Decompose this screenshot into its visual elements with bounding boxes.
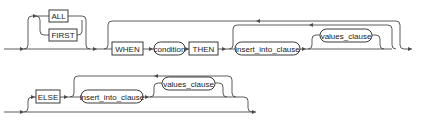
condition-label: condition <box>153 45 185 54</box>
row2-values-branch-return <box>215 83 227 97</box>
else-branch <box>24 97 36 112</box>
values-clause-label: values_clause <box>321 32 372 41</box>
insert-into-clause-label: insert_into_clause <box>235 45 300 54</box>
end-arrow-icon <box>252 110 256 114</box>
else-branch-return <box>236 97 252 112</box>
row2-values-clause-label: values_clause <box>163 80 214 89</box>
row2-insert-into-clause-label: insert_into_clause <box>80 93 145 102</box>
syntax-diagram: ALL FIRST WHEN condition THEN insert_int… <box>0 0 422 124</box>
branch-first-return <box>77 20 82 35</box>
arrow-icon <box>145 95 149 99</box>
arrow-icon <box>149 47 153 51</box>
keyword-else: ELSE <box>38 93 58 102</box>
end-arrow-icon <box>408 47 412 51</box>
keyword-first: FIRST <box>51 31 74 40</box>
branch-all <box>24 16 49 49</box>
keyword-then: THEN <box>193 45 215 54</box>
arrow-icon <box>64 95 68 99</box>
arrow-icon <box>256 19 260 23</box>
arrow-icon <box>154 74 158 78</box>
arrow-icon <box>222 47 226 51</box>
values-branch-return <box>372 35 384 49</box>
row2-values-branch <box>150 83 162 97</box>
arrow-icon <box>20 110 24 114</box>
branch-first <box>36 16 49 35</box>
arrow-icon <box>31 95 35 99</box>
arrow-icon <box>93 47 97 51</box>
arrow-icon <box>20 47 24 51</box>
keyword-when: WHEN <box>115 45 140 54</box>
keyword-all: ALL <box>51 12 66 21</box>
values-branch <box>308 35 320 49</box>
arrow-icon <box>302 47 306 51</box>
arrow-icon <box>185 47 189 51</box>
arrow-icon <box>309 23 313 27</box>
